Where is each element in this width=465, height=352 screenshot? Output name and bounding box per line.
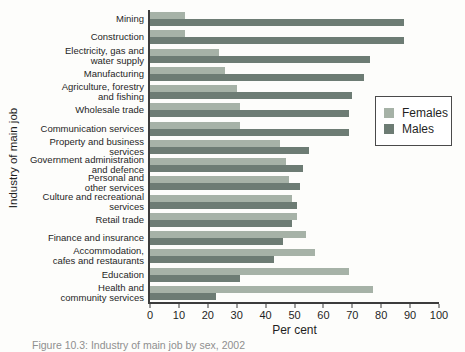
bar-males xyxy=(150,147,309,154)
chart-row xyxy=(150,193,439,211)
category-label: Education xyxy=(18,266,144,284)
bar-males xyxy=(150,110,349,117)
x-axis-tick xyxy=(381,304,382,308)
x-axis-tick xyxy=(323,304,324,308)
bar-females xyxy=(150,49,219,56)
x-axis-title: Per cent xyxy=(150,323,439,337)
chart-row xyxy=(150,229,439,247)
chart-row xyxy=(150,156,439,174)
x-axis-tick xyxy=(410,304,411,308)
bar-females xyxy=(150,122,240,129)
x-axis-tick-label: 100 xyxy=(430,309,448,321)
x-axis-tick-label: 60 xyxy=(317,309,329,321)
x-axis-tick xyxy=(178,304,179,308)
bar-males xyxy=(150,256,274,263)
bar-males xyxy=(150,293,216,300)
chart-row xyxy=(150,284,439,302)
x-axis-tick xyxy=(207,304,208,308)
x-axis-tick xyxy=(150,304,151,308)
x-axis-tick-label: 10 xyxy=(173,309,185,321)
figure-caption: Figure 10.3: Industry of main job by sex… xyxy=(32,339,452,352)
x-axis: Per cent 0102030405060708090100 xyxy=(150,304,439,344)
x-axis-tick xyxy=(265,304,266,308)
legend: Females Males xyxy=(375,96,452,146)
bar-females xyxy=(150,286,373,293)
category-label: Retail trade xyxy=(18,211,144,229)
chart-row xyxy=(150,266,439,284)
plot-area xyxy=(148,10,439,304)
chart-row xyxy=(150,10,439,28)
bar-males xyxy=(150,238,283,245)
category-label: Health and community services xyxy=(18,284,144,302)
category-label: Construction xyxy=(18,28,144,46)
chart-row xyxy=(150,28,439,46)
bar-females xyxy=(150,12,185,19)
x-axis-tick-label: 40 xyxy=(259,309,271,321)
bar-males xyxy=(150,275,240,282)
category-label: Culture and recreational services xyxy=(18,193,144,211)
bar-males xyxy=(150,129,349,136)
x-axis-tick-label: 50 xyxy=(288,309,300,321)
category-label: Electricity, gas and water supply xyxy=(18,47,144,65)
x-axis-tick-label: 80 xyxy=(375,309,387,321)
category-label: Accommodation, cafes and restaurants xyxy=(18,247,144,265)
bar-females xyxy=(150,213,297,220)
chart-row xyxy=(150,174,439,192)
bar-males xyxy=(150,56,370,63)
legend-swatch-males xyxy=(384,124,394,134)
category-label: Agriculture, forestry and fishing xyxy=(18,83,144,101)
category-label: Wholesale trade xyxy=(18,101,144,119)
bar-females xyxy=(150,231,306,238)
bar-females xyxy=(150,30,185,37)
category-label: Communication services xyxy=(18,120,144,138)
bar-males xyxy=(150,165,303,172)
bar-females xyxy=(150,67,225,74)
chart-row xyxy=(150,47,439,65)
x-axis-tick-label: 70 xyxy=(346,309,358,321)
legend-label-females: Females xyxy=(402,106,448,120)
category-label: Personal and other services xyxy=(18,174,144,192)
chart-row xyxy=(150,247,439,265)
bar-males xyxy=(150,19,404,26)
x-axis-tick xyxy=(236,304,237,308)
chart-row xyxy=(150,65,439,83)
bar-males xyxy=(150,92,352,99)
x-axis-tick-label: 30 xyxy=(231,309,243,321)
bar-females xyxy=(150,249,315,256)
category-label: Mining xyxy=(18,10,144,28)
bar-females xyxy=(150,195,292,202)
bar-females xyxy=(150,85,237,92)
bar-females xyxy=(150,268,349,275)
legend-entry-males: Males xyxy=(384,122,443,136)
x-axis-tick-label: 20 xyxy=(202,309,214,321)
bar-males xyxy=(150,74,364,81)
bar-males xyxy=(150,37,404,44)
x-axis-tick xyxy=(352,304,353,308)
bar-males xyxy=(150,183,300,190)
category-labels: MiningConstructionElectricity, gas and w… xyxy=(18,10,144,302)
legend-label-males: Males xyxy=(402,122,434,136)
bar-females xyxy=(150,103,240,110)
bar-males xyxy=(150,202,297,209)
bar-females xyxy=(150,176,289,183)
chart-row xyxy=(150,211,439,229)
x-axis-tick xyxy=(294,304,295,308)
x-axis-tick-label: 90 xyxy=(404,309,416,321)
legend-entry-females: Females xyxy=(384,106,443,120)
legend-swatch-females xyxy=(384,108,394,118)
bar-males xyxy=(150,220,292,227)
bar-females xyxy=(150,158,286,165)
chart-rows xyxy=(150,10,439,302)
bar-females xyxy=(150,140,280,147)
x-axis-tick-label: 0 xyxy=(147,309,153,321)
x-axis-tick xyxy=(439,304,440,308)
